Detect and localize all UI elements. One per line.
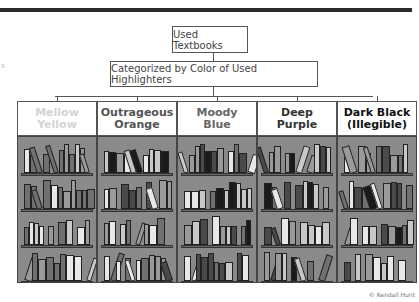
book-icon: [109, 221, 116, 245]
book-icon: [388, 226, 396, 245]
shelf-plank: [181, 281, 253, 283]
book-icon: [58, 222, 66, 245]
book-icon: [225, 262, 233, 281]
shelf-plank: [21, 209, 93, 212]
shelf-plank: [101, 245, 173, 248]
book-icon: [46, 257, 54, 281]
category-label-line2: Purple: [277, 118, 317, 131]
book-icon: [109, 152, 116, 173]
shelf-plank: [261, 173, 333, 176]
book-icon: [177, 151, 189, 173]
shelf-row: [342, 177, 412, 209]
bookshelf-4: [337, 136, 417, 283]
bookshelf-3: [257, 136, 337, 283]
book-icon: [116, 153, 124, 173]
book-icon: [43, 180, 51, 209]
root-node-label: Used Textbooks: [173, 29, 247, 51]
book-icon: [344, 262, 351, 281]
shelf-plank: [341, 209, 413, 212]
book-icon: [217, 148, 224, 173]
book-icon: [24, 184, 31, 209]
book-icon: [184, 256, 191, 281]
book-icon: [39, 226, 44, 245]
book-icon: [242, 255, 249, 281]
category-label-line2: (Illegible): [347, 118, 407, 131]
shelf-row: [22, 177, 92, 209]
shelf-plank: [261, 209, 333, 212]
shelf-plank: [101, 209, 173, 212]
book-icon: [48, 226, 54, 245]
book-icon: [326, 147, 331, 173]
shelf-plank: [21, 245, 93, 248]
connector-root: [213, 53, 214, 61]
book-icon: [323, 187, 329, 209]
book-icon: [350, 218, 358, 245]
book-icon: [136, 187, 142, 209]
book-icon: [167, 181, 172, 209]
book-icon: [239, 153, 247, 173]
shelf-plank: [261, 245, 333, 248]
shelf-row: [182, 249, 252, 281]
shelf-plank: [21, 281, 93, 283]
shelf-row: [262, 249, 332, 281]
book-icon: [289, 221, 296, 245]
book-icon: [201, 257, 208, 281]
book-icon: [307, 261, 314, 281]
book-icon: [129, 190, 136, 209]
book-icon: [104, 256, 110, 281]
book-icon: [300, 222, 308, 245]
book-icon: [271, 227, 281, 246]
book-icon: [231, 226, 237, 245]
bookshelf-0: [17, 136, 97, 283]
shelf-row: [342, 249, 412, 281]
book-icon: [229, 182, 236, 209]
book-icon: [281, 218, 289, 245]
book-icon: [74, 256, 82, 281]
category-label-line2: Blue: [203, 118, 230, 131]
book-icon: [308, 225, 315, 245]
shelf-plank: [261, 281, 333, 283]
shelf-row: [22, 141, 92, 173]
book-icon: [77, 227, 85, 245]
book-icon: [284, 182, 291, 209]
book-icon: [373, 257, 381, 281]
connector-horizontal: [55, 96, 373, 97]
category-label-3: DeepPurple: [257, 101, 337, 136]
shelf-row: [102, 177, 172, 209]
book-icon: [247, 188, 252, 209]
book-icon: [365, 254, 373, 281]
book-icon: [212, 216, 220, 245]
book-icon: [407, 220, 414, 245]
book-icon: [406, 185, 413, 209]
shelf-plank: [101, 281, 173, 283]
copyright-credit: © Kendall Hunt: [369, 291, 415, 298]
book-icon: [369, 226, 377, 245]
book-icon: [381, 224, 388, 245]
shelf-row: [22, 249, 92, 281]
book-icon: [264, 252, 270, 281]
book-icon: [157, 218, 165, 245]
shelf-plank: [341, 281, 413, 283]
book-icon: [66, 255, 74, 281]
book-icon: [257, 147, 269, 174]
book-icon: [247, 154, 257, 175]
shelf-plank: [341, 173, 413, 176]
shelf-row: [182, 177, 252, 209]
book-icon: [63, 191, 71, 209]
book-icon: [154, 150, 161, 173]
book-icon: [354, 187, 362, 209]
book-icon: [141, 258, 149, 281]
book-icon: [191, 191, 199, 209]
book-icon: [338, 190, 349, 210]
bookshelf-2: [177, 136, 257, 283]
book-icon: [387, 256, 394, 281]
book-icon: [116, 261, 121, 281]
shelf-plank: [181, 245, 253, 248]
shelf-plank: [181, 209, 253, 212]
book-icon: [216, 188, 224, 209]
book-icon: [121, 184, 129, 209]
shelf-row: [102, 249, 172, 281]
top-rule: [0, 8, 412, 12]
book-icon: [355, 254, 361, 281]
shelf-plank: [341, 245, 413, 248]
